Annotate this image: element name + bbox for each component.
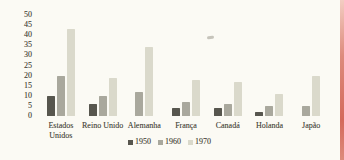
x-category-label: Japão	[290, 121, 332, 140]
bar-group-2	[82, 15, 124, 116]
bar-1950	[47, 96, 55, 116]
bar-group-3	[123, 15, 165, 116]
y-tick-label: 0	[14, 111, 32, 121]
bar-group-4	[165, 15, 207, 116]
plot-area	[40, 15, 332, 116]
bar-group-5	[207, 15, 249, 116]
bar-1950	[172, 108, 180, 116]
bar-1970	[312, 76, 320, 116]
x-category-label: Canadá	[207, 121, 249, 140]
bar-1950	[255, 112, 263, 116]
bar-group-6	[249, 15, 291, 116]
x-category-label: Estados Unidos	[40, 121, 82, 140]
bar-1950	[89, 104, 97, 116]
bar-1960	[99, 96, 107, 116]
bar-1970	[109, 78, 117, 116]
bar-1960	[135, 92, 143, 116]
bar-1960	[302, 106, 310, 116]
bar-1970	[234, 82, 242, 116]
legend-label-1960: 1960	[165, 137, 181, 147]
bar-group-7	[290, 15, 332, 116]
bar-1960	[224, 104, 232, 116]
bar-1960	[57, 76, 65, 116]
scan-edge-artifact	[340, 0, 344, 160]
legend-swatch-1970	[188, 140, 193, 145]
legend-label-1970: 1970	[195, 137, 211, 147]
bar-group-1	[40, 15, 82, 116]
y-tick-label: 40	[14, 30, 32, 40]
legend-label-1950: 1950	[135, 137, 151, 147]
bar-1970	[192, 80, 200, 116]
bar-1970	[275, 94, 283, 116]
legend-item-1960: 1960	[158, 137, 181, 147]
y-axis: 50454035302520151050	[14, 0, 32, 130]
y-tick-label: 15	[14, 81, 32, 91]
scanned-bar-chart-page: 50454035302520151050 Estados UnidosReino…	[0, 0, 344, 160]
x-category-label: Reino Unido	[82, 121, 124, 140]
legend-item-1950: 1950	[128, 137, 151, 147]
bar-1970	[145, 47, 153, 116]
legend-swatch-1950	[128, 140, 133, 145]
y-tick-label: 50	[14, 10, 32, 20]
bar-1960	[265, 106, 273, 116]
y-tick-label: 10	[14, 91, 32, 101]
x-category-label: Holanda	[249, 121, 291, 140]
y-tick-label: 35	[14, 40, 32, 50]
bar-1960	[182, 102, 190, 116]
bar-1970	[67, 29, 75, 116]
y-tick-label: 5	[14, 101, 32, 111]
y-tick-label: 20	[14, 71, 32, 81]
y-tick-label: 30	[14, 50, 32, 60]
legend-swatch-1960	[158, 140, 163, 145]
bar-chart: 50454035302520151050 Estados UnidosReino…	[0, 0, 344, 160]
y-tick-label: 25	[14, 61, 32, 71]
y-tick-label: 45	[14, 20, 32, 30]
legend: 1950 1960 1970	[128, 137, 211, 147]
bar-1950	[214, 108, 222, 116]
legend-item-1970: 1970	[188, 137, 211, 147]
